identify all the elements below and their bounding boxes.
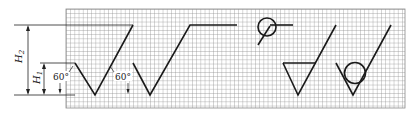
h1-label: H1 bbox=[31, 71, 44, 85]
h2-label: H2 bbox=[13, 49, 26, 64]
roughness-symbol-diagram: H2 H1 60° 60° bbox=[0, 0, 419, 117]
angle-left-label: 60° bbox=[53, 72, 69, 82]
angle-right-label: 60° bbox=[115, 72, 131, 82]
